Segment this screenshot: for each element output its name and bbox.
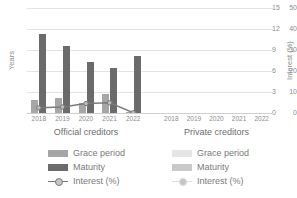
chart-root: Years 50 40 30 20 10 0 Interest (%) 15 1… [0, 0, 297, 198]
legend-item[interactable]: Grace period [172, 146, 292, 160]
interest-point[interactable] [60, 105, 64, 109]
legend-label: Maturity [197, 162, 229, 172]
x-tick-label: 2019 [51, 115, 75, 123]
x-tick-label: 2020 [205, 115, 228, 123]
y-axis-left-title: Years [7, 41, 16, 81]
x-tick-label: 2018 [27, 115, 51, 123]
interest-point[interactable] [84, 101, 88, 105]
legend-item[interactable]: Maturity [172, 160, 292, 174]
x-tick-label: 2019 [183, 115, 206, 123]
legend-swatch [48, 164, 68, 171]
legend-item[interactable]: Grace period [48, 146, 168, 160]
x-tick-label: 2021 [98, 115, 122, 123]
panel-title-official: Official creditors [27, 127, 145, 137]
legend-official: Grace periodMaturityInterest (%) [48, 146, 168, 188]
legend-private: Grace periodMaturityInterest (%) [172, 146, 292, 188]
legend-swatch [172, 150, 192, 157]
interest-point[interactable] [37, 106, 41, 110]
legend-item[interactable]: Interest (%) [48, 174, 168, 188]
legend-label: Interest (%) [197, 176, 244, 186]
legend-dot [55, 178, 63, 186]
panel-title-private: Private creditors [160, 127, 273, 137]
legend-label: Interest (%) [73, 176, 120, 186]
legend-dot [179, 178, 187, 186]
interest-point[interactable] [131, 111, 135, 114]
interest-point[interactable] [107, 101, 111, 105]
x-tick-label: 2021 [228, 115, 251, 123]
y-tick-right-12: 12 [272, 25, 280, 33]
plot-area-official [27, 8, 145, 113]
legend-label: Maturity [73, 162, 105, 172]
x-tick-label: 2020 [74, 115, 98, 123]
plot-area-private [160, 8, 273, 113]
legend-swatch [48, 150, 68, 157]
legend-swatch [172, 164, 192, 171]
y-axis-right-title: Interest (%) [285, 39, 294, 83]
legend-label: Grace period [197, 148, 249, 158]
x-tick-label: 2022 [250, 115, 273, 123]
x-tick-label: 2018 [160, 115, 183, 123]
legend-label: Grace period [73, 148, 125, 158]
x-axis-private: 20182019202020212022 [160, 115, 273, 125]
gridline [27, 113, 273, 114]
legend-item[interactable]: Interest (%) [172, 174, 292, 188]
legend-item[interactable]: Maturity [48, 160, 168, 174]
interest-line-series [27, 8, 145, 113]
x-tick-label: 2022 [121, 115, 145, 123]
legend-line-marker-icon [48, 177, 68, 186]
x-axis-official: 20182019202020212022 [27, 115, 145, 125]
legend-line-marker-icon [172, 177, 192, 186]
y-tick-right-15: 15 [272, 4, 280, 12]
